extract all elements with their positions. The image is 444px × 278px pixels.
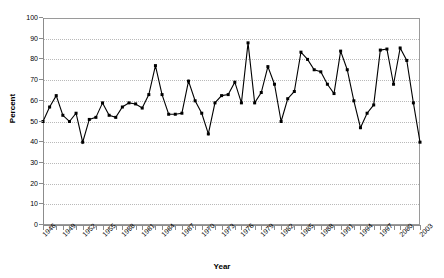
gridline: [44, 101, 419, 102]
x-axis-tick: [43, 226, 44, 230]
x-axis-tick: [228, 226, 229, 230]
y-axis-tick: [39, 121, 43, 122]
x-axis-tick: [294, 226, 295, 230]
x-axis-tick: [129, 226, 130, 230]
y-axis-tick: [39, 17, 43, 18]
y-axis-tick: [39, 100, 43, 101]
x-axis-tick: [142, 226, 143, 230]
x-axis-tick: [367, 226, 368, 230]
x-axis-tick: [136, 226, 137, 230]
y-axis-tick: [39, 183, 43, 184]
x-axis-tick: [360, 226, 361, 230]
x-axis-tick: [281, 226, 282, 230]
x-axis-tick: [89, 226, 90, 230]
x-axis-tick: [56, 226, 57, 230]
y-axis-tick-label: 90: [4, 35, 38, 42]
x-axis-tick: [149, 226, 150, 230]
x-axis-tick: [63, 226, 64, 230]
x-axis-tick: [189, 226, 190, 230]
gridline: [44, 204, 419, 205]
y-axis-labels: 0102030405060708090100: [0, 0, 38, 278]
x-axis-tick: [321, 226, 322, 230]
x-axis-tick: [96, 226, 97, 230]
x-axis-tick: [354, 226, 355, 230]
x-axis-tick: [407, 226, 408, 230]
x-axis-tick: [248, 226, 249, 230]
x-axis-tick: [394, 226, 395, 230]
x-axis-tick: [175, 226, 176, 230]
x-axis-tick: [387, 226, 388, 230]
x-axis-tick: [241, 226, 242, 230]
y-axis-tick-label: 20: [4, 180, 38, 187]
y-axis-tick-label: 10: [4, 200, 38, 207]
chart-container: 0102030405060708090100 Percent 194619491…: [0, 0, 444, 278]
x-axis-tick: [202, 226, 203, 230]
x-axis-tick: [288, 226, 289, 230]
x-axis-tick: [314, 226, 315, 230]
gridline: [44, 80, 419, 81]
x-axis-tick: [334, 226, 335, 230]
x-axis-tick: [268, 226, 269, 230]
x-axis-tick: [103, 226, 104, 230]
x-axis-tick: [420, 226, 421, 230]
x-axis-tick: [83, 226, 84, 230]
x-axis-tick: [182, 226, 183, 230]
y-axis-tick: [39, 58, 43, 59]
y-axis-tick-label: 100: [4, 14, 38, 21]
x-axis-tick: [76, 226, 77, 230]
gridline: [44, 163, 419, 164]
gridline: [44, 59, 419, 60]
y-axis-tick-label: 80: [4, 55, 38, 62]
x-axis-tick: [301, 226, 302, 230]
x-axis-tick: [400, 226, 401, 230]
gridline: [44, 184, 419, 185]
gridline: [44, 142, 419, 143]
y-axis-tick: [39, 141, 43, 142]
y-axis-tick: [39, 162, 43, 163]
x-axis-tick: [50, 226, 51, 230]
gridline: [44, 39, 419, 40]
y-axis-tick-label: 40: [4, 138, 38, 145]
x-axis-tick: [235, 226, 236, 230]
x-axis-tick: [255, 226, 256, 230]
y-axis-line: [43, 18, 44, 226]
y-axis-tick: [39, 224, 43, 225]
x-axis-tick: [327, 226, 328, 230]
x-axis-tick: [261, 226, 262, 230]
x-axis-tick: [374, 226, 375, 230]
x-axis-tick: [195, 226, 196, 230]
x-axis-tick: [274, 226, 275, 230]
x-axis-title: Year: [0, 262, 444, 271]
x-axis-tick: [380, 226, 381, 230]
y-axis-tick: [39, 203, 43, 204]
x-axis-tick: [169, 226, 170, 230]
y-axis-title: Percent: [8, 79, 17, 139]
x-axis-tick: [222, 226, 223, 230]
x-axis-tick: [116, 226, 117, 230]
y-axis-tick-label: 0: [4, 221, 38, 228]
x-axis-tick: [215, 226, 216, 230]
x-axis-tick: [347, 226, 348, 230]
plot-area: [43, 18, 420, 225]
gridline: [44, 122, 419, 123]
x-axis-tick: [122, 226, 123, 230]
x-axis-tick: [413, 226, 414, 230]
x-axis-tick: [162, 226, 163, 230]
x-axis-tick: [308, 226, 309, 230]
x-axis-tick: [109, 226, 110, 230]
x-axis-tick: [69, 226, 70, 230]
y-axis-tick-label: 30: [4, 159, 38, 166]
x-axis-tick: [341, 226, 342, 230]
x-axis-tick: [155, 226, 156, 230]
y-axis-tick: [39, 38, 43, 39]
y-axis-tick: [39, 79, 43, 80]
x-axis-tick: [208, 226, 209, 230]
